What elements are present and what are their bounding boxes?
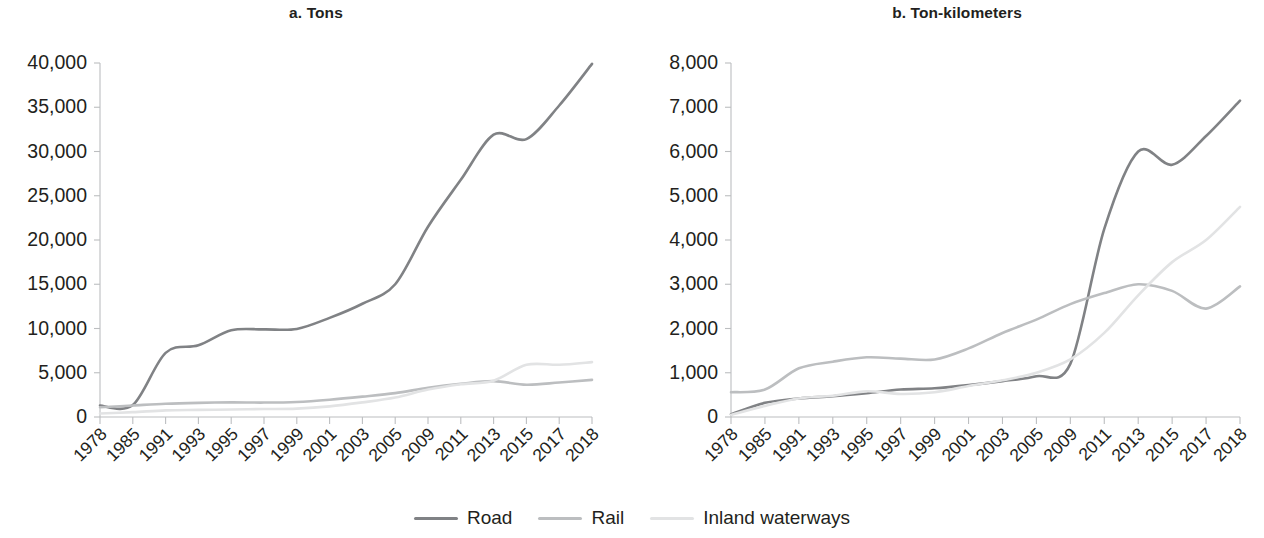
x-tick-label: 2013: [1107, 424, 1149, 466]
y-tick-label: 0: [76, 405, 87, 427]
y-tick-label: 6,000: [669, 140, 718, 162]
x-tick-label: 1985: [102, 424, 144, 466]
x-tick-label: 1997: [870, 424, 912, 466]
panel-a-plot: 05,00010,00015,00020,00025,00030,00035,0…: [0, 0, 632, 500]
x-tick-label: 2017: [528, 424, 570, 466]
legend-label-road: Road: [467, 507, 512, 529]
legend-label-inland-waterways: Inland waterways: [703, 507, 850, 529]
y-tick-label: 20,000: [27, 228, 87, 250]
y-tick-label: 30,000: [27, 140, 87, 162]
panel-b-plot: 01,0002,0003,0004,0005,0006,0007,0008,00…: [632, 0, 1264, 500]
x-tick-label: 1999: [266, 424, 308, 466]
figure-container: a. Tons 05,00010,00015,00020,00025,00030…: [0, 0, 1264, 538]
series-line-road: [731, 101, 1240, 415]
x-tick-label: 1997: [233, 424, 275, 466]
x-tick-label: 1985: [734, 424, 776, 466]
series-line-inland-waterways: [731, 207, 1240, 415]
y-tick-label: 5,000: [669, 184, 718, 206]
y-tick-label: 10,000: [27, 317, 87, 339]
x-tick-label: 2003: [972, 424, 1014, 466]
series-line-rail: [100, 380, 592, 407]
y-tick-label: 8,000: [669, 51, 718, 73]
y-tick-label: 3,000: [669, 272, 718, 294]
x-tick-label: 1978: [700, 424, 742, 466]
y-tick-label: 35,000: [27, 95, 87, 117]
x-tick-label: 1993: [168, 424, 210, 466]
y-tick-label: 1,000: [669, 361, 718, 383]
chart-legend: Road Rail Inland waterways: [0, 498, 1264, 538]
x-tick-label: 2011: [1074, 424, 1115, 465]
x-tick-label: 1995: [836, 424, 878, 466]
y-tick-label: 7,000: [669, 95, 718, 117]
x-tick-label: 2009: [1039, 424, 1081, 466]
x-tick-label: 1995: [200, 424, 242, 466]
series-line-rail: [731, 284, 1240, 392]
legend-swatch-inland-waterways: [650, 517, 694, 520]
legend-swatch-road: [414, 517, 458, 520]
x-tick-label: 2005: [364, 424, 406, 466]
y-tick-label: 40,000: [27, 51, 87, 73]
x-tick-label: 2001: [938, 424, 980, 466]
x-tick-label: 2005: [1006, 424, 1048, 466]
x-tick-label: 1978: [69, 424, 111, 466]
y-tick-label: 4,000: [669, 228, 718, 250]
legend-label-rail: Rail: [591, 507, 624, 529]
y-tick-label: 25,000: [27, 184, 87, 206]
series-line-road: [100, 64, 592, 409]
x-tick-label: 2001: [299, 424, 341, 466]
y-tick-label: 15,000: [27, 272, 87, 294]
x-tick-label: 1993: [802, 424, 844, 466]
x-tick-label: 2017: [1175, 424, 1217, 466]
x-tick-label: 2003: [332, 424, 374, 466]
chart-panel-tons: a. Tons 05,00010,00015,00020,00025,00030…: [0, 0, 632, 500]
y-tick-label: 0: [707, 405, 718, 427]
legend-swatch-rail: [538, 517, 582, 520]
series-line-inland-waterways: [100, 362, 592, 413]
x-tick-label: 2015: [1141, 424, 1183, 466]
x-tick-label: 1991: [768, 424, 810, 466]
x-tick-label: 2009: [397, 424, 439, 466]
x-tick-label: 1991: [135, 424, 177, 466]
y-tick-label: 2,000: [669, 317, 718, 339]
chart-panel-ton-kilometers: b. Ton-kilometers 01,0002,0003,0004,0005…: [632, 0, 1264, 500]
y-tick-label: 5,000: [38, 361, 87, 383]
x-tick-label: 2011: [431, 424, 472, 465]
x-tick-label: 2013: [463, 424, 505, 466]
x-tick-label: 1999: [904, 424, 946, 466]
x-tick-label: 2018: [1209, 424, 1251, 466]
legend-item-inland-waterways[interactable]: Inland waterways: [650, 507, 850, 529]
x-tick-label: 2015: [496, 424, 538, 466]
legend-item-road[interactable]: Road: [414, 507, 512, 529]
x-tick-label: 2018: [561, 424, 603, 466]
legend-item-rail[interactable]: Rail: [538, 507, 624, 529]
